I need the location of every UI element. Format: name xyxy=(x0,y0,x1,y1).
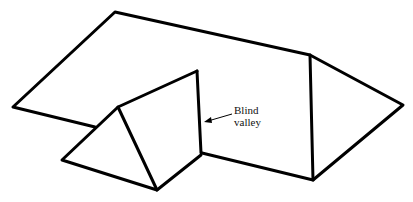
blind-valley-line xyxy=(197,71,201,153)
arrow-icon xyxy=(204,114,232,123)
annotation-line-1: Blind xyxy=(234,104,261,116)
hip-line xyxy=(310,55,313,180)
gable-ridge xyxy=(118,107,157,190)
roof-diagram xyxy=(0,0,413,202)
annotation-line-2: valley xyxy=(234,116,261,128)
gable-roof xyxy=(62,71,201,190)
main-roof-outline xyxy=(13,12,403,180)
annotation-label: Blind valley xyxy=(234,104,261,128)
